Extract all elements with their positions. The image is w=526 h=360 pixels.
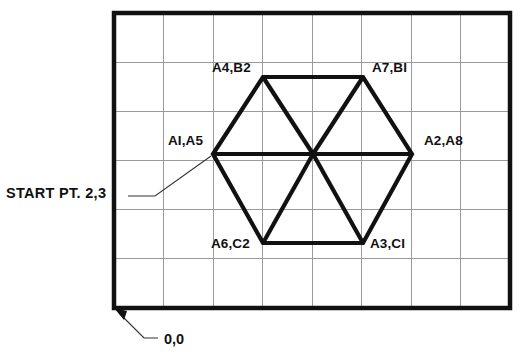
vertex-label-a7-b1: A7,BI — [372, 60, 407, 75]
vertex-label-a1-a5: AI,A5 — [168, 133, 203, 148]
vertex-label-a3-c1: A3,CI — [370, 236, 405, 251]
diagram-canvas: AI,A5 A4,B2 A7,BI A2,A8 A3,CI A6,C2 STAR… — [0, 0, 526, 360]
hexagon-grid-drawing: AI,A5 A4,B2 A7,BI A2,A8 A3,CI A6,C2 STAR… — [0, 0, 526, 360]
vertex-label-a2-a8: A2,A8 — [424, 133, 463, 148]
vertex-label-a6-c2: A6,C2 — [211, 236, 250, 251]
start-point-label: START PT. 2,3 — [6, 185, 106, 201]
origin-label: 0,0 — [164, 331, 184, 347]
vertex-label-a4-b2: A4,B2 — [212, 60, 251, 75]
